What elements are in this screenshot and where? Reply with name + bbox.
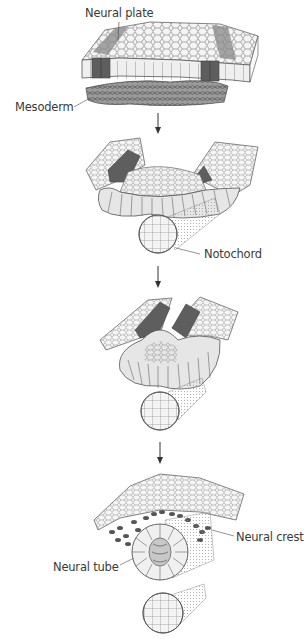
neurulation-diagram: Neural plate Mesoderm Notochord Neural c… <box>0 0 307 639</box>
label-notochord: Notochord <box>204 247 262 261</box>
arrow-down-3-icon <box>157 442 163 464</box>
stage-neural-plate <box>74 22 258 107</box>
stage-neural-folds <box>86 138 258 254</box>
label-neural-crest: Neural crest <box>236 530 304 544</box>
arrow-down-1-icon <box>155 113 161 134</box>
label-neural-tube: Neural tube <box>53 560 119 574</box>
label-mesoderm: Mesoderm <box>15 100 74 114</box>
stage-neural-folds-closing <box>100 297 238 430</box>
label-neural-plate: Neural plate <box>85 6 153 20</box>
arrow-down-2-icon <box>155 266 161 288</box>
stage-neural-tube <box>94 474 244 633</box>
